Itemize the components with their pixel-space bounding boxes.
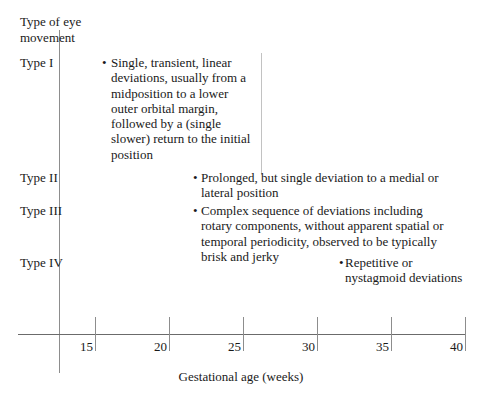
description-text: Single, transient, linear deviations, us… <box>111 55 254 162</box>
row-label-type-ii: Type II <box>20 170 58 185</box>
bullet-icon: • <box>339 255 344 270</box>
x-axis-tick-label-35: 35 <box>349 339 389 354</box>
x-axis-tick-40 <box>465 317 466 351</box>
row-label-type-iii: Type III <box>20 203 62 218</box>
bullet-icon: • <box>102 55 107 70</box>
x-axis-title: Gestational age (weeks) <box>0 369 482 384</box>
x-axis-tick-15 <box>95 317 96 351</box>
type-i-region-divider <box>261 53 262 175</box>
x-axis-line <box>18 334 466 335</box>
eye-movement-figure: Type of eye movement Type I Type II Type… <box>0 0 482 409</box>
x-axis-tick-20 <box>169 317 170 351</box>
bullet-icon: • <box>193 170 198 185</box>
x-axis-tick-30 <box>317 317 318 351</box>
description-type-ii: • Prolonged, but single deviation to a m… <box>193 170 453 201</box>
x-axis-tick-label-25: 25 <box>201 339 241 354</box>
row-label-type-iv: Type IV <box>20 255 63 270</box>
description-type-i: • Single, transient, linear deviations, … <box>102 55 254 162</box>
y-axis-title: Type of eye movement <box>20 14 90 45</box>
row-label-type-i: Type I <box>20 55 53 70</box>
description-text: Prolonged, but single deviation to a med… <box>201 170 453 201</box>
x-axis-tick-label-40: 40 <box>423 339 463 354</box>
y-axis-line <box>59 30 60 373</box>
bullet-icon: • <box>193 203 198 218</box>
x-axis-tick-35 <box>391 317 392 351</box>
x-axis-tick-label-30: 30 <box>275 339 315 354</box>
x-axis-tick-label-20: 20 <box>127 339 167 354</box>
description-text: Repetitive or nystagmoid deviations <box>345 255 469 286</box>
description-type-iv: • Repetitive or nystagmoid deviations <box>339 255 469 286</box>
x-axis-tick-25 <box>243 317 244 351</box>
x-axis-tick-label-15: 15 <box>53 339 93 354</box>
